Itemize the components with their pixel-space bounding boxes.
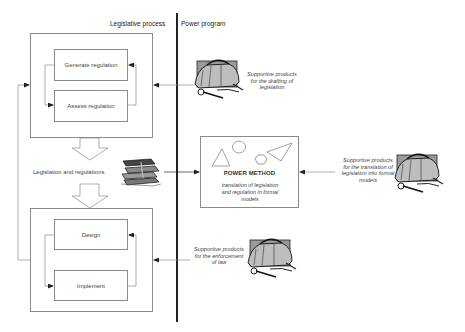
diagram-connectors — [0, 0, 465, 332]
books-icon — [121, 159, 161, 186]
toolbag-icon — [248, 239, 296, 277]
toolbag-icon — [195, 60, 243, 98]
toolbag-icon — [395, 154, 443, 192]
